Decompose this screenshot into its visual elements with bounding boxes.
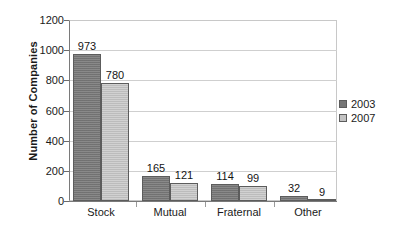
y-axis-tick-mark: [64, 111, 69, 112]
y-axis-tick-label: 1200: [24, 14, 64, 26]
legend-swatch-2003: [339, 100, 347, 108]
y-axis-tick-mark: [64, 20, 69, 21]
bar-value-label: 973: [67, 40, 107, 52]
legend-item-2007: 2007: [339, 111, 375, 125]
x-axis-tick-label: Stock: [61, 206, 141, 218]
chart-legend: 2003 2007: [339, 97, 375, 125]
y-axis-tick-label: 200: [24, 165, 64, 177]
bar: [170, 183, 198, 201]
y-axis-tick-label: 400: [24, 135, 64, 147]
y-axis-tick-mark: [64, 80, 69, 81]
bar-value-label: 99: [233, 172, 273, 184]
legend-label-2003: 2003: [351, 98, 375, 110]
bar: [211, 184, 239, 201]
y-axis-tick-mark: [64, 141, 69, 142]
bar: [239, 186, 267, 201]
bar-value-label: 780: [95, 69, 135, 81]
x-axis-tick-label: Other: [268, 206, 348, 218]
x-axis-line: [69, 201, 337, 202]
gridline: [70, 50, 337, 51]
legend-item-2003: 2003: [339, 97, 375, 111]
bar: [101, 83, 129, 201]
bar-chart: Number of Companies 2003 2007 0200400600…: [0, 0, 399, 231]
bar-value-label: 9: [302, 186, 342, 198]
y-axis-tick-mark: [64, 171, 69, 172]
legend-label-2007: 2007: [351, 112, 375, 124]
y-axis-tick-mark: [64, 201, 69, 202]
y-axis-tick-label: 600: [24, 105, 64, 117]
y-axis-tick-label: 0: [24, 195, 64, 207]
y-axis-tick-label: 1000: [24, 44, 64, 56]
y-axis-tick-label: 800: [24, 74, 64, 86]
legend-swatch-2007: [339, 114, 347, 122]
x-axis-tick-label: Mutual: [130, 206, 210, 218]
bar-value-label: 121: [164, 169, 204, 181]
x-axis-tick-label: Fraternal: [199, 206, 279, 218]
